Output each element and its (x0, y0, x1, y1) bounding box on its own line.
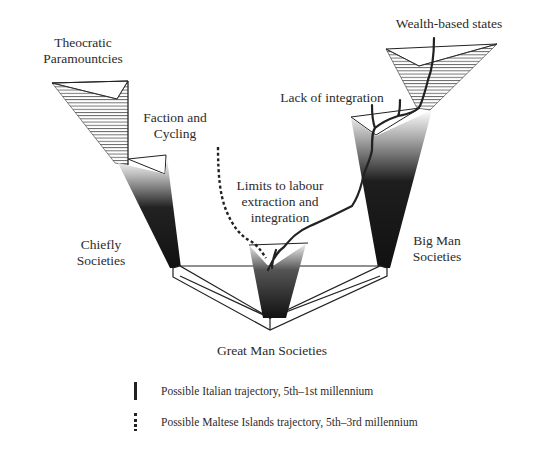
label-bigman-line1: Big Man (404, 233, 470, 249)
solid-line-icon (128, 380, 142, 402)
label-chiefly-line2: Societies (68, 253, 134, 269)
wealth-triangle (386, 44, 497, 110)
label-theocratic-line2: Paramountcies (28, 51, 138, 67)
label-chiefly-line1: Chiefly (68, 237, 134, 253)
label-wealth-text: Wealth-based states (384, 16, 514, 32)
label-wealth: Wealth-based states (384, 16, 514, 32)
label-limits-line1: Limits to labour (225, 178, 335, 194)
label-faction-line2: Cycling (135, 126, 215, 142)
label-bigman: Big Man Societies (404, 233, 470, 265)
label-lack-text: Lack of integration (272, 90, 392, 106)
theocratic-triangle (52, 81, 128, 165)
label-greatman: Great Man Societies (210, 343, 334, 359)
label-faction-line1: Faction and (135, 110, 215, 126)
legend-maltese-text: Possible Maltese Islands trajectory, 5th… (161, 416, 418, 428)
legend-italian: Possible Italian trajectory, 5th–1st mil… (128, 380, 373, 402)
label-greatman-text: Great Man Societies (210, 343, 334, 359)
label-theocratic-line1: Theocratic (28, 35, 138, 51)
legend-maltese: Possible Maltese Islands trajectory, 5th… (128, 411, 418, 433)
label-limits-line2: extraction and (225, 194, 335, 210)
label-faction: Faction and Cycling (135, 110, 215, 142)
label-limits-line3: integration (225, 210, 335, 226)
label-lack: Lack of integration (272, 90, 392, 106)
legend-italian-text: Possible Italian trajectory, 5th–1st mil… (161, 385, 373, 397)
label-chiefly: Chiefly Societies (68, 237, 134, 269)
label-limits: Limits to labour extraction and integrat… (225, 178, 335, 226)
label-bigman-line2: Societies (404, 249, 470, 265)
dashed-line-icon (128, 411, 142, 433)
label-theocratic: Theocratic Paramountcies (28, 35, 138, 67)
